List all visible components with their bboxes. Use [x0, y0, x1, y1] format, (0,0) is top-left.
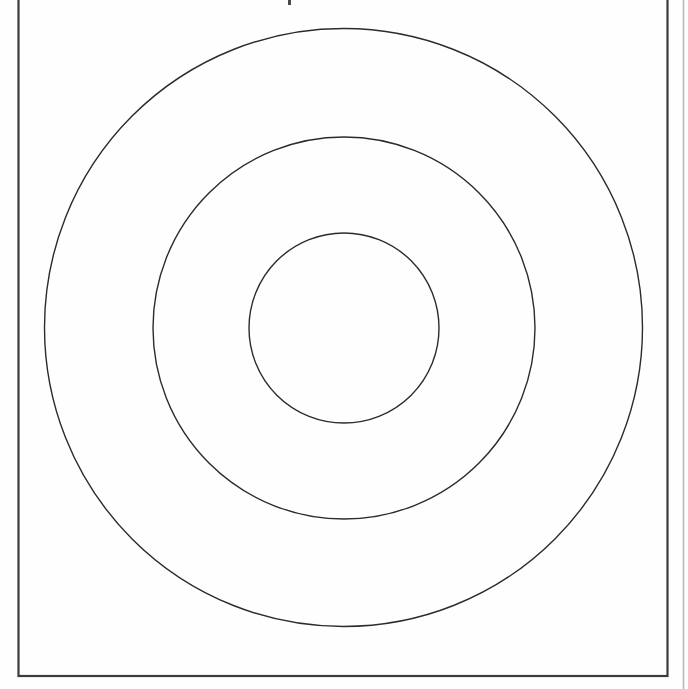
- page-canvas: [0, 0, 688, 689]
- inner-circle: [249, 233, 439, 423]
- concentric-circles-figure: [0, 0, 688, 689]
- scan-speck: [288, 0, 291, 5]
- middle-circle: [153, 137, 535, 519]
- outer-circle: [45, 29, 643, 627]
- page-border-rectangle: [19, 0, 668, 676]
